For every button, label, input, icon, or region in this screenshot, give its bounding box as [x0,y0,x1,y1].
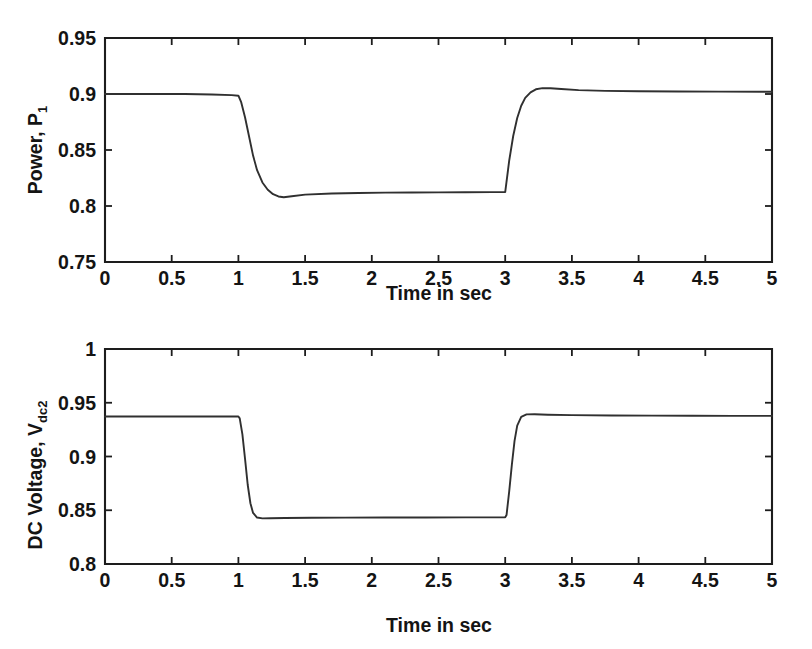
vdc-axes [105,349,772,564]
dc-voltage-plot-svg: 00.511.522.533.544.55 0.80.850.90.951 Ti… [0,320,812,649]
x-tick-label: 3.5 [558,267,585,289]
y-tick-label: 0.9 [69,83,96,105]
x-tick-label: 0 [100,569,111,591]
x-tick-label: 5 [767,569,778,591]
y-tick-label: 0.85 [58,139,96,161]
y-tick-label: 0.8 [69,553,96,575]
chart-panel-power: 00.511.522.533.544.55 0.750.80.850.90.95… [0,0,812,320]
power-x-tick-marks [105,38,772,262]
x-tick-label: 2.5 [425,569,452,591]
y-tick-label: 0.75 [58,251,96,273]
y-tick-label: 0.9 [69,446,96,468]
x-tick-label: 1 [233,569,244,591]
x-tick-label: 0.5 [158,267,185,289]
power-y-tick-labels: 0.750.80.850.90.95 [58,27,96,273]
x-tick-label: 2 [366,267,377,289]
x-tick-label: 3.5 [558,569,585,591]
figure-container: 00.511.522.533.544.55 0.750.80.850.90.95… [0,0,812,649]
y-tick-label: 1 [85,338,96,360]
vdc-axis-frame [105,349,772,564]
power-y-tick-marks [105,38,772,262]
y-tick-label: 0.95 [58,27,96,49]
x-tick-label: 2 [366,569,377,591]
y-tick-label: 0.8 [69,195,96,217]
x-tick-label: 4.5 [692,267,719,289]
x-tick-label: 1.5 [292,569,319,591]
vdc-x-tick-marks [105,349,772,564]
power-data-curve [105,88,772,197]
vdc-x-tick-labels: 00.511.522.533.544.55 [100,569,778,591]
x-tick-label: 4 [633,569,644,591]
power-x-axis-title: Time in sec [386,282,492,304]
x-tick-label: 1 [233,267,244,289]
power-axes [105,38,772,262]
power-y-axis-title: Power, P1 [24,106,50,195]
vdc-y-tick-labels: 0.80.850.90.951 [58,338,96,575]
x-tick-label: 4.5 [692,569,719,591]
vdc-data-curve [105,414,772,518]
chart-panel-dc-voltage: 00.511.522.533.544.55 0.80.850.90.951 Ti… [0,320,812,649]
vdc-y-axis-title: DC Voltage, Vdc2 [24,401,50,550]
y-tick-label: 0.85 [58,499,96,521]
vdc-x-axis-title: Time in sec [386,614,492,636]
x-tick-label: 5 [767,267,778,289]
x-tick-label: 4 [633,267,644,289]
x-tick-label: 3 [500,569,511,591]
power-axis-frame [105,38,772,262]
power-plot-svg: 00.511.522.533.544.55 0.750.80.850.90.95… [0,0,812,320]
x-tick-label: 3 [500,267,511,289]
y-tick-label: 0.95 [58,392,96,414]
x-tick-label: 0.5 [158,569,185,591]
x-tick-label: 1.5 [292,267,319,289]
vdc-y-tick-marks [105,349,772,564]
x-tick-label: 0 [100,267,111,289]
